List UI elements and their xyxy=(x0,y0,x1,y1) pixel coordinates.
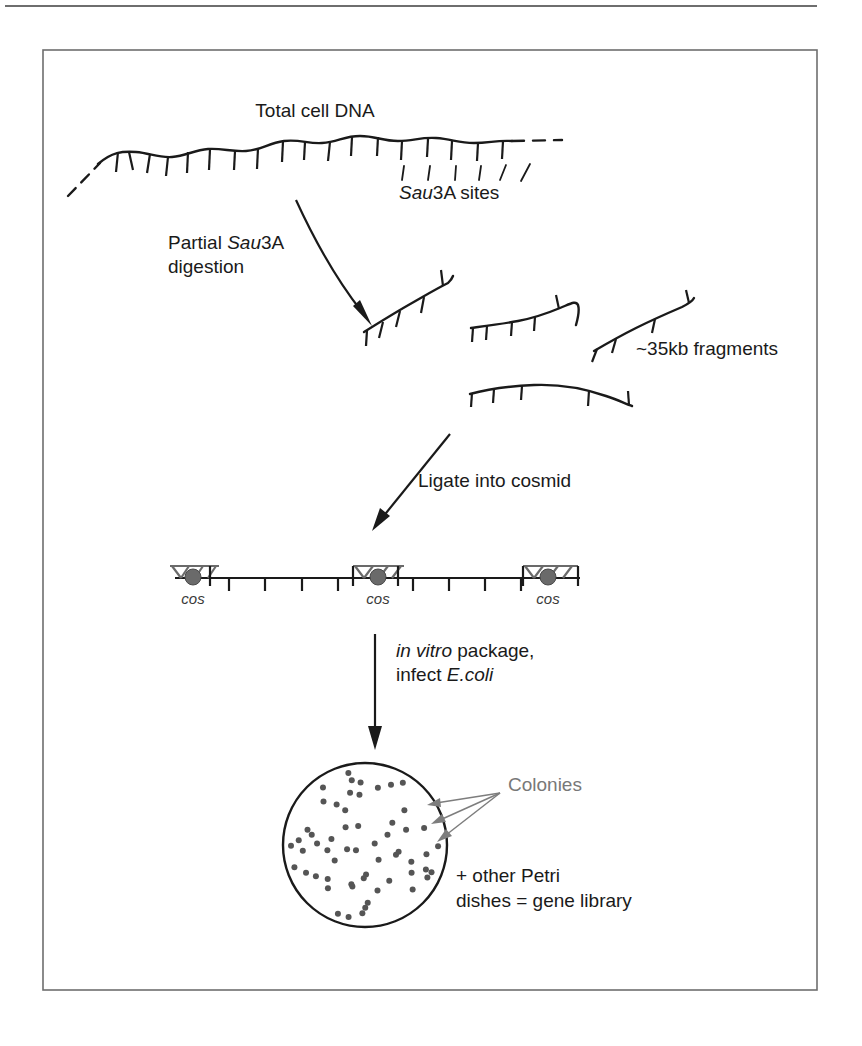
label-invitro-rest: package, xyxy=(452,640,534,661)
arrow-partial-digestion-head xyxy=(353,300,372,326)
colony-dot xyxy=(303,870,309,876)
colony-dot xyxy=(347,790,353,796)
dna-fragment-4 xyxy=(470,385,632,407)
fragment-1-backbone xyxy=(364,276,453,332)
label-infect-line2: infect E.coli xyxy=(396,664,494,685)
dna-dashed-left-end xyxy=(68,163,100,196)
colony-dot xyxy=(410,887,416,893)
colony-dot xyxy=(372,841,378,847)
colony-dot xyxy=(314,840,320,846)
dna-fragment-1 xyxy=(364,270,453,346)
label-partial-post: 3A xyxy=(261,232,285,253)
colony-dot xyxy=(321,799,327,805)
label-infect-pre: infect xyxy=(396,664,447,685)
colony-dot xyxy=(435,843,441,849)
cos-site-1: cos xyxy=(170,566,219,607)
label-invitro-italic: in vitro xyxy=(396,640,452,661)
colony-dot xyxy=(362,905,368,911)
colony-dot xyxy=(288,843,294,849)
cos-site-2: cos xyxy=(353,566,404,607)
colony-dot xyxy=(328,836,334,842)
cos-site-3: cos xyxy=(523,566,578,607)
colony-dot xyxy=(359,910,365,916)
label-partial-pre: Partial xyxy=(168,232,227,253)
colony-dot xyxy=(375,785,381,791)
colony-dot xyxy=(400,780,406,786)
colony-dot xyxy=(300,848,306,854)
colony-dot xyxy=(335,911,341,917)
cos-label-3: cos xyxy=(536,590,560,607)
colony-dot xyxy=(325,885,331,891)
colony-dot xyxy=(423,851,429,857)
colony-dot xyxy=(332,857,338,863)
sau3a-leader-ticks xyxy=(402,164,530,181)
arrow-partial-digestion-body xyxy=(296,200,362,312)
colony-dot xyxy=(334,801,340,807)
cos-label-1: cos xyxy=(181,590,205,607)
label-sau3a-sites-italic: Sau xyxy=(399,182,433,203)
colony-dot xyxy=(424,874,430,880)
label-ecoli-italic: E.coli xyxy=(447,664,494,685)
colonies-leader-arrows xyxy=(427,793,500,842)
colony-dot xyxy=(401,807,407,813)
label-partial-digestion-line1: Partial Sau3A xyxy=(168,232,285,253)
label-partial-digestion-line2: digestion xyxy=(168,256,244,277)
colony-dot xyxy=(384,832,390,838)
label-colonies: Colonies xyxy=(508,774,582,795)
colony-dot xyxy=(403,827,409,833)
figure-page: Total cell DNA Sau3A sites Partial Sau3A… xyxy=(0,0,862,1046)
arrow-package-infect xyxy=(368,634,382,750)
label-total-cell-dna: Total cell DNA xyxy=(255,100,375,121)
colony-dot xyxy=(376,857,382,863)
colony-dot xyxy=(344,846,350,852)
dna-fragment-2 xyxy=(471,295,579,342)
colony-dot xyxy=(386,878,392,884)
colony-dot xyxy=(296,837,302,843)
colony-dot xyxy=(374,887,380,893)
colony-dot xyxy=(429,869,435,875)
dna-dashed-right-end xyxy=(512,140,562,141)
colony-dot xyxy=(325,876,331,882)
colony-dot xyxy=(396,849,402,855)
petri-dish xyxy=(283,763,447,927)
colony-dot xyxy=(309,832,315,838)
label-petri-line1: + other Petri xyxy=(456,865,560,886)
cos-label-2: cos xyxy=(366,590,390,607)
label-petri-line2: dishes = gene library xyxy=(456,890,632,911)
label-sau3a-sites: Sau3A sites xyxy=(399,182,499,203)
colony-dot xyxy=(346,914,352,920)
label-ligate: Ligate into cosmid xyxy=(418,470,571,491)
label-sau3a-sites-rest: 3A sites xyxy=(433,182,500,203)
colony-dot xyxy=(409,870,415,876)
gene-library-diagram: Total cell DNA Sau3A sites Partial Sau3A… xyxy=(0,0,862,1046)
colony-dot xyxy=(389,820,395,826)
colony-dot xyxy=(355,823,361,829)
label-invitro-line1: in vitro package, xyxy=(396,640,534,661)
arrow-package-head xyxy=(368,726,382,750)
colony-dot xyxy=(421,825,427,831)
colony-dot xyxy=(345,770,351,776)
colony-dot xyxy=(342,807,348,813)
colony-dot xyxy=(358,780,364,786)
colony-dots-group xyxy=(288,770,441,920)
colony-dot xyxy=(423,867,429,873)
colony-dot xyxy=(343,824,349,830)
colony-dot xyxy=(313,873,319,879)
colony-dot xyxy=(324,847,330,853)
colony-dot xyxy=(408,859,414,865)
colony-dot xyxy=(353,847,359,853)
colony-dot xyxy=(349,883,355,889)
arrow-partial-digestion xyxy=(296,200,372,326)
colony-dot xyxy=(320,784,326,790)
colony-dot xyxy=(291,864,297,870)
colony-dot xyxy=(361,875,367,881)
colony-dot xyxy=(349,777,355,783)
label-fragments-size: ~35kb fragments xyxy=(636,338,778,359)
fragment-2-backbone xyxy=(471,303,579,328)
colony-dot xyxy=(305,827,311,833)
colony-dot xyxy=(388,782,394,788)
label-partial-italic: Sau xyxy=(227,232,261,253)
colony-dot xyxy=(356,792,362,798)
cosmid-map: cos cos xyxy=(170,566,580,607)
